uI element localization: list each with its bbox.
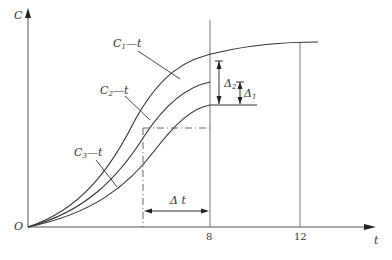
concentration-time-diagram: Δ t Δ2 Δ1 C1—t C2—t C3—t C O t 8 12: [0, 0, 392, 260]
x-tick-8: 8: [206, 231, 212, 242]
c1-leader: [138, 51, 180, 79]
delta1-label: Δ1: [243, 87, 256, 101]
origin-label: O: [14, 220, 23, 233]
x-axis-label: t: [374, 234, 379, 247]
delta-t-label: Δ t: [169, 194, 186, 207]
delta-t-dimension: [144, 209, 209, 214]
curve-label-c1: C1—t: [113, 37, 142, 51]
y-axis-label: C: [14, 9, 23, 22]
x-axis: [28, 224, 376, 230]
x-axis-arrow-icon: [364, 224, 376, 230]
delta2-label: Δ2: [223, 77, 237, 91]
curve-c3: [28, 105, 210, 227]
curve-label-c2: C2—t: [100, 84, 129, 98]
x-tick-12: 12: [294, 231, 307, 242]
delta1-dimension: [236, 82, 244, 104]
y-axis: [25, 8, 31, 227]
curve-label-c3: C3—t: [74, 146, 103, 160]
y-axis-arrow-icon: [25, 8, 31, 18]
delta2-dimension: [215, 61, 223, 104]
